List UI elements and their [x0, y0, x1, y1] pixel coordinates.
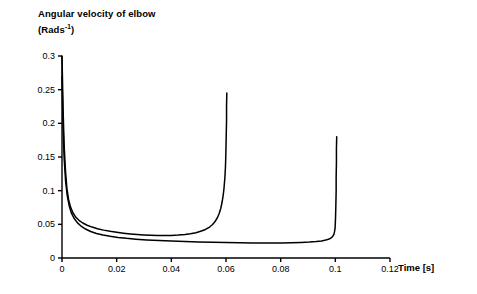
- y-tick-label: 0.2: [42, 118, 55, 128]
- chart-figure: Angular velocity of elbow(Rads-1) Time […: [0, 0, 477, 294]
- x-tick-label: 0.02: [108, 264, 126, 274]
- series-line-curve-1: [62, 56, 227, 236]
- x-tick-label: 0.06: [217, 264, 235, 274]
- x-tick-label: 0.08: [272, 264, 290, 274]
- plot-canvas: [0, 0, 477, 294]
- y-tick-label: 0.25: [37, 85, 55, 95]
- y-tick-label: 0.1: [42, 186, 55, 196]
- x-tick-label: 0.1: [329, 264, 342, 274]
- y-tick-label: 0.05: [37, 219, 55, 229]
- x-tick-label: 0.12: [381, 264, 399, 274]
- series-line-curve-2: [62, 76, 337, 243]
- x-tick-label: 0.04: [163, 264, 181, 274]
- y-tick-label: 0.15: [37, 152, 55, 162]
- x-tick-label: 0: [59, 264, 64, 274]
- y-tick-label: 0: [50, 253, 55, 263]
- data-series-group: [62, 56, 337, 243]
- y-tick-label: 0.3: [42, 51, 55, 61]
